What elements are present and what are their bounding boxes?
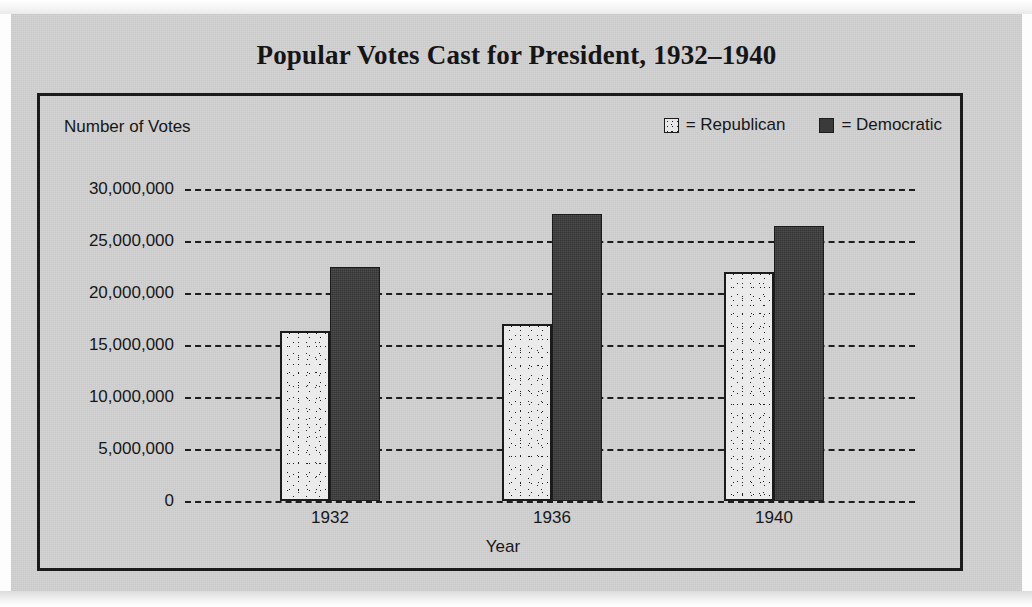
x-axis-tick-label: 1940 — [714, 508, 834, 528]
y-axis-tick-label: 20,000,000 — [40, 283, 174, 303]
bar-republican-1936 — [502, 324, 552, 501]
y-axis-tick-label: 5,000,000 — [40, 439, 174, 459]
axis-baseline — [185, 501, 915, 503]
x-axis-tick-label: 1936 — [492, 508, 612, 528]
scan-edge-top — [0, 0, 1032, 14]
y-axis-tick-label: 0 — [40, 491, 174, 511]
x-axis-tick-label: 1932 — [270, 508, 390, 528]
chart-panel: Popular Votes Cast for President, 1932–1… — [11, 14, 1022, 591]
plot-frame: Number of Votes = Republican = Democrati… — [37, 93, 963, 571]
legend-item-democratic: = Democratic — [819, 115, 942, 135]
legend-item-republican: = Republican — [664, 115, 786, 135]
y-axis-tick-label: 10,000,000 — [40, 387, 174, 407]
y-axis-tick-label: 30,000,000 — [40, 179, 174, 199]
chart-legend: = Republican = Democratic — [664, 115, 942, 135]
legend-label-republican: = Republican — [686, 115, 786, 135]
y-axis-tick-label: 25,000,000 — [40, 231, 174, 251]
x-axis-title: Year — [40, 537, 966, 557]
scan-edge-bottom — [0, 591, 1032, 607]
bar-democratic-1936 — [552, 214, 602, 501]
bar-republican-1940 — [724, 272, 774, 501]
legend-swatch-republican-icon — [664, 118, 679, 133]
bar-democratic-1932 — [330, 267, 380, 501]
plot-area: Number of Votes = Republican = Democrati… — [40, 96, 960, 568]
chart-title: Popular Votes Cast for President, 1932–1… — [11, 40, 1022, 71]
legend-swatch-democratic-icon — [819, 118, 834, 133]
y-axis-title: Number of Votes — [64, 117, 191, 137]
gridline — [185, 189, 915, 191]
y-axis-tick-label: 15,000,000 — [40, 335, 174, 355]
bar-republican-1932 — [280, 331, 330, 501]
bar-democratic-1940 — [774, 226, 824, 501]
legend-label-democratic: = Democratic — [841, 115, 942, 135]
scanned-page: Popular Votes Cast for President, 1932–1… — [0, 0, 1032, 607]
